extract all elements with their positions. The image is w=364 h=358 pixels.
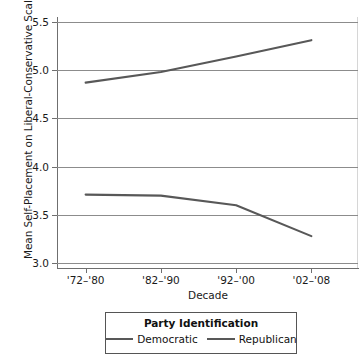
- y-tick-label: 4.0: [9, 162, 49, 172]
- x-tick-label: '92–'00: [201, 274, 271, 286]
- x-tick-label: '72–'80: [51, 274, 121, 286]
- x-axis-title: Decade: [57, 289, 359, 301]
- y-tick-label: 5.0: [9, 65, 49, 75]
- x-tick-mark: [86, 268, 87, 273]
- legend-title: Party Identification: [106, 317, 296, 329]
- legend-entry-label: Republican: [239, 333, 297, 345]
- y-tick-label: 3.0: [9, 258, 49, 268]
- x-tick-mark: [161, 268, 162, 273]
- legend-entries: DemocraticRepublican: [106, 333, 296, 345]
- y-tick-label: 5.5: [9, 17, 49, 27]
- legend-line-swatch: [207, 338, 235, 340]
- x-tick-mark: [311, 268, 312, 273]
- x-tick-label: '82–'90: [126, 274, 196, 286]
- series-layer: [57, 17, 358, 268]
- y-tick-mark: [52, 263, 57, 264]
- y-tick-mark: [52, 22, 57, 23]
- legend-entry-label: Democratic: [137, 333, 198, 345]
- legend-line-swatch: [105, 338, 133, 340]
- y-tick-label: 3.5: [9, 210, 49, 220]
- x-tick-label: '02–'08: [276, 274, 346, 286]
- chart-figure: Mean Self-Placement on Liberal-Conservat…: [0, 0, 364, 358]
- y-tick-mark: [52, 118, 57, 119]
- legend-entry[interactable]: Democratic: [105, 333, 198, 345]
- y-tick-label: 4.5: [9, 113, 49, 123]
- x-tick-mark: [236, 268, 237, 273]
- y-tick-mark: [52, 215, 57, 216]
- series-line-democratic: [86, 195, 312, 237]
- y-tick-mark: [52, 167, 57, 168]
- legend-entry[interactable]: Republican: [207, 333, 297, 345]
- series-line-republican: [86, 40, 312, 82]
- plot-area: [57, 17, 358, 268]
- legend-box: Party Identification DemocraticRepublica…: [105, 312, 297, 354]
- x-axis-line: [57, 268, 359, 269]
- y-tick-mark: [52, 70, 57, 71]
